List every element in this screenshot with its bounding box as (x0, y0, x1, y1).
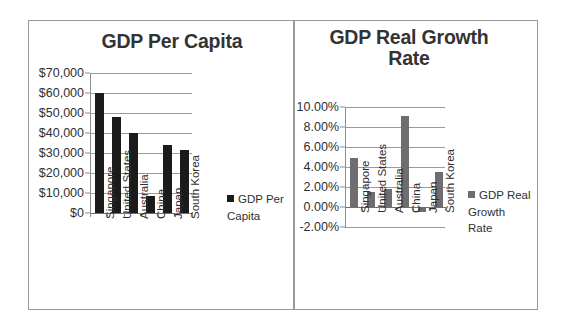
gridline-10pct (345, 107, 445, 108)
legend-label-line-1: GDP Per (238, 193, 284, 205)
legend-gdp-real-growth-rate: GDP Real Growth Rate (468, 187, 540, 237)
legend-label-line-3: Rate (468, 220, 540, 237)
plot-area-gdp-per-capita: $70,000 $60,000 $50,000 $40,000 $30,000 … (90, 73, 192, 213)
legend-swatch-icon (227, 195, 234, 202)
chart-title-gdp-real-growth-rate: GDP Real Growth Rate (311, 27, 507, 69)
gridline-6pct (345, 147, 445, 148)
chart-panel-gdp-per-capita: GDP Per Capita $70,000 $60,000 $50,000 $… (28, 20, 294, 310)
y-axis-line (90, 73, 91, 213)
x-label-australia: Australia (393, 168, 405, 213)
x-label-australia: Australia (138, 174, 150, 219)
y-tick-label: $70,000 (39, 66, 90, 80)
gridline-30000 (90, 153, 192, 154)
y-tick-label: 2.00% (304, 180, 345, 194)
legend-label-line-2: Capita (227, 208, 297, 225)
chart-title-gdp-per-capita: GDP Per Capita (57, 31, 287, 52)
bar-singapore (350, 158, 358, 207)
y-tick-label: $0 (70, 206, 90, 220)
xtickmark (90, 213, 91, 217)
y-tick-label: -2.00% (299, 220, 345, 234)
y-tick-label: $30,000 (39, 146, 90, 160)
x-label-china: China (155, 189, 167, 219)
y-tick-label: 0.00% (304, 200, 345, 214)
chart-panel-gdp-real-growth-rate: GDP Real Growth Rate 10.00% 8.00% 6.00% … (294, 20, 538, 310)
legend-label-line-1: GDP Real (479, 189, 531, 201)
x-label-japan: Japan (172, 188, 184, 219)
gridline-40000 (90, 133, 192, 134)
x-label-united-states: United States (376, 144, 388, 213)
chart-title-line-2: Rate (311, 48, 507, 69)
gridline-neg2pct (345, 227, 445, 228)
y-tick-label: $10,000 (39, 186, 90, 200)
x-label-south-korea: South Korea (444, 149, 456, 213)
x-label-china: China (410, 183, 422, 213)
y-tick-label: $60,000 (39, 86, 90, 100)
y-tick-label: $40,000 (39, 126, 90, 140)
y-tick-label: $20,000 (39, 166, 90, 180)
gridline-50000 (90, 113, 192, 114)
x-label-singapore: Singapore (359, 161, 371, 213)
x-label-south-korea: South Korea (189, 155, 201, 219)
legend-label-line-2: Growth (468, 204, 540, 221)
x-label-japan: Japan (427, 182, 439, 213)
y-tick-label: 10.00% (297, 100, 345, 114)
gridline-60000 (90, 93, 192, 94)
bar-singapore (95, 93, 104, 213)
legend-gdp-per-capita: GDP Per Capita (227, 191, 297, 224)
plot-area-gdp-real-growth-rate: 10.00% 8.00% 6.00% 4.00% 2.00% 0.00% -2.… (345, 107, 445, 227)
gridline-70000 (90, 73, 192, 74)
y-tick-label: 4.00% (304, 160, 345, 174)
xtickmark (345, 207, 346, 211)
legend-swatch-icon (468, 191, 475, 198)
chart-title-line-1: GDP Real Growth (311, 27, 507, 48)
x-label-united-states: United States (121, 150, 133, 219)
screenshot-root: GDP Per Capita $70,000 $60,000 $50,000 $… (0, 0, 566, 328)
y-tick-label: $50,000 (39, 106, 90, 120)
y-tick-label: 6.00% (304, 140, 345, 154)
gridline-8pct (345, 127, 445, 128)
x-label-singapore: Singapore (104, 167, 116, 219)
y-tick-label: 8.00% (304, 120, 345, 134)
